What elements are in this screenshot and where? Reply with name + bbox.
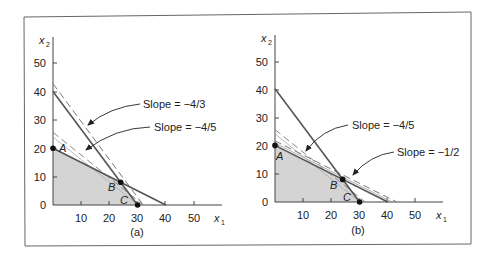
- y-tick-label: 40: [34, 86, 46, 98]
- panel-caption: (a): [130, 226, 143, 238]
- arrow-icon: [88, 104, 140, 125]
- x-tick-label: 30: [131, 212, 143, 224]
- x-tick-label: 30: [353, 209, 365, 221]
- point-a-label: A: [275, 150, 283, 162]
- y-tick-label: 0: [40, 199, 46, 211]
- x-axis-label: x: [435, 209, 442, 221]
- panel-b: 0 10 20 30 40 50 10 20 30 40 50 x 2 x 1 …: [256, 32, 460, 236]
- panel-a: 0 10 20 30 40 50 10 20 30 40 50 x 2 x 1 …: [34, 34, 225, 238]
- x-tick-label: 20: [325, 209, 337, 221]
- y-axis-label: x: [260, 32, 267, 44]
- x-axis-subscript: 1: [443, 216, 447, 223]
- point-a: [50, 145, 56, 151]
- y-tick-label: 30: [256, 112, 268, 124]
- x-axis-subscript: 1: [221, 219, 225, 226]
- point-b-label: B: [108, 181, 115, 193]
- y-tick-label: 20: [34, 143, 46, 155]
- x-tick-label: 50: [409, 209, 421, 221]
- y-tick-label: 10: [256, 168, 268, 180]
- y-axis-label: x: [38, 34, 45, 46]
- point-b-label: B: [330, 179, 337, 191]
- x-tick-label: 20: [103, 212, 115, 224]
- point-c-label: C: [120, 194, 128, 206]
- y-tick-label: 50: [34, 57, 46, 69]
- y-axis-subscript: 2: [46, 41, 50, 48]
- point-c: [135, 202, 141, 208]
- y-tick-label: 50: [256, 56, 268, 68]
- x-tick-label: 40: [381, 209, 393, 221]
- slope-annotation: Slope = −1/2: [397, 146, 459, 158]
- figure: 0 10 20 30 40 50 10 20 30 40 50 x 2 x 1 …: [0, 0, 492, 257]
- y-tick-label: 40: [256, 84, 268, 96]
- x-tick-label: 50: [188, 212, 200, 224]
- point-b: [118, 180, 124, 186]
- point-b: [340, 177, 346, 183]
- slope-annotation: Slope = −4/5: [154, 121, 216, 133]
- x-axis-label: x: [213, 212, 220, 224]
- point-a: [272, 143, 278, 149]
- y-tick-label: 30: [34, 114, 46, 126]
- x-tick-label: 10: [75, 212, 87, 224]
- arrow-icon: [353, 152, 394, 175]
- point-c-label: C: [343, 191, 351, 203]
- x-tick-label: 40: [159, 212, 171, 224]
- point-c: [357, 199, 363, 205]
- y-tick-label: 10: [34, 171, 46, 183]
- slope-annotation: Slope = −4/3: [143, 98, 205, 110]
- point-a-label: A: [58, 142, 66, 154]
- y-tick-label: 0: [262, 196, 268, 208]
- y-tick-label: 20: [256, 140, 268, 152]
- x-tick-label: 10: [297, 209, 309, 221]
- y-axis-subscript: 2: [268, 39, 272, 46]
- slope-annotation: Slope = −4/5: [352, 119, 414, 131]
- panel-caption: (b): [351, 224, 364, 236]
- arrow-icon: [86, 127, 150, 150]
